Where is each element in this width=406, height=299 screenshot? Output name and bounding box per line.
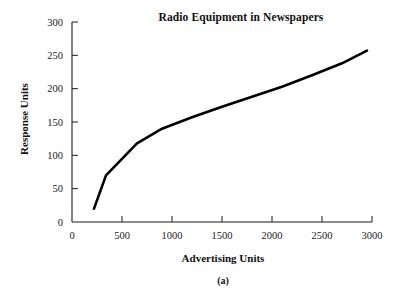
x-tick-label: 2000 xyxy=(262,230,283,241)
y-axis-tick-labels: 050100150200250300 xyxy=(47,17,63,228)
x-tick-label: 0 xyxy=(69,230,74,241)
x-tick-label: 3000 xyxy=(362,230,383,241)
y-tick-label: 0 xyxy=(58,217,63,228)
x-tick-label: 500 xyxy=(114,230,130,241)
x-axis-tick-labels: 050010001500200025003000 xyxy=(69,230,382,241)
x-axis-tick-marks xyxy=(122,216,372,222)
x-tick-label: 1500 xyxy=(212,230,233,241)
y-tick-label: 200 xyxy=(47,83,63,94)
y-tick-label: 300 xyxy=(47,17,63,28)
x-tick-label: 1000 xyxy=(162,230,183,241)
y-tick-label: 250 xyxy=(47,50,63,61)
chart-axes xyxy=(72,22,372,222)
y-tick-label: 150 xyxy=(47,117,63,128)
x-axis-title: Advertising Units xyxy=(73,252,373,264)
y-axis-tick-marks xyxy=(72,22,78,189)
figure-panel: Radio Equipment in Newspapers Response U… xyxy=(0,0,406,299)
figure-caption: (a) xyxy=(73,275,373,286)
y-tick-label: 100 xyxy=(47,150,63,161)
x-tick-label: 2500 xyxy=(312,230,333,241)
y-tick-label: 50 xyxy=(53,183,64,194)
data-series-line xyxy=(94,51,367,209)
